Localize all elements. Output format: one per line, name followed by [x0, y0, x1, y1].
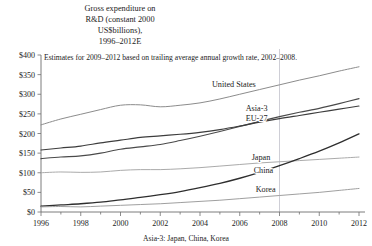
- series-label-united-states: United States: [212, 80, 256, 89]
- y-axis-label: $400: [19, 51, 35, 60]
- y-axis-label: $0: [27, 208, 35, 217]
- y-axis-label: $50: [23, 188, 35, 197]
- chart-subtitle: Estimates for 2009–2012 based on trailin…: [44, 53, 297, 62]
- chart-title-line: R&D (constant 2000: [85, 15, 154, 24]
- x-axis-label: 2004: [192, 219, 208, 228]
- series-line-japan: [41, 157, 359, 173]
- x-axis-label: 2012: [351, 219, 367, 228]
- y-axis-label: $150: [19, 149, 35, 158]
- x-axis-label: 2010: [311, 219, 327, 228]
- y-axis-label: $100: [19, 169, 35, 178]
- series-label-asia-3: Asia-3: [246, 104, 268, 113]
- chart-footnote: Asia-3: Japan, China, Korea: [143, 234, 229, 243]
- x-axis-label: 2002: [152, 219, 168, 228]
- x-axis-label: 1996: [33, 219, 49, 228]
- series-label-japan: Japan: [252, 153, 271, 162]
- chart-svg: Gross expenditure onR&D (constant 2000US…: [0, 0, 372, 246]
- series-line-united-states: [41, 67, 359, 125]
- x-axis-label: 2006: [232, 219, 248, 228]
- x-axis-label: 2008: [272, 219, 288, 228]
- series-label-eu-27: EU-27: [246, 114, 268, 123]
- series-label-china: China: [254, 166, 274, 175]
- series-line-asia-3: [41, 99, 359, 159]
- chart-title-line: 1996–2012E: [99, 37, 141, 46]
- chart-title-line: US$billions),: [98, 26, 143, 35]
- y-axis-label: $200: [19, 130, 35, 139]
- series-label-korea: Korea: [256, 185, 276, 194]
- y-axis-label: $300: [19, 90, 35, 99]
- y-axis-label: $250: [19, 110, 35, 119]
- chart-title-line: Gross expenditure on: [85, 4, 157, 13]
- series-line-korea: [41, 188, 359, 206]
- x-axis-label: 1998: [73, 219, 89, 228]
- rd-expenditure-chart: Gross expenditure onR&D (constant 2000US…: [0, 0, 372, 246]
- x-axis-label: 2000: [113, 219, 129, 228]
- y-axis-label: $350: [19, 71, 35, 80]
